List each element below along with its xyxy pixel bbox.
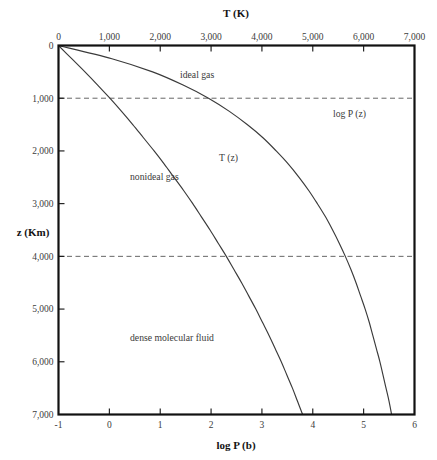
annotation-nonideal-gas: nonideal gas: [130, 171, 179, 182]
top-tick-label-5000: 5,000: [302, 32, 324, 42]
top-tick-label-2000: 2,000: [150, 32, 172, 42]
bottom-tick-label-0: 0: [107, 420, 112, 430]
left-tick-label-5000: 5,000: [32, 304, 54, 314]
bottom-tick-label-6: 6: [412, 420, 417, 430]
top-tick-label-4000: 4,000: [251, 32, 273, 42]
bottom-tick-label-1: 1: [158, 420, 163, 430]
top-tick-label-3000: 3,000: [200, 32, 222, 42]
annotation-log-p-curve-label: log P (z): [333, 108, 366, 120]
chart-canvas: 01,0002,0003,0004,0005,0006,0007,000 -10…: [0, 0, 437, 460]
bottom-axis-title: log P (b): [216, 439, 255, 452]
left-axis-title: z (Km): [17, 226, 50, 239]
annotation-dense-molecular-fluid: dense molecular fluid: [130, 332, 214, 343]
figure-background: [0, 0, 437, 460]
bottom-tick-label-2: 2: [209, 420, 214, 430]
bottom-tick-label-3: 3: [260, 420, 265, 430]
left-tick-label-3000: 3,000: [32, 199, 54, 209]
left-tick-label-1000: 1,000: [32, 94, 54, 104]
top-tick-label-0: 0: [56, 32, 61, 42]
left-tick-label-6000: 6,000: [32, 357, 54, 367]
left-tick-label-2000: 2,000: [32, 146, 54, 156]
bottom-tick-label--1: -1: [55, 420, 63, 430]
top-tick-label-7000: 7,000: [404, 32, 426, 42]
bottom-tick-label-5: 5: [361, 420, 366, 430]
left-tick-label-0: 0: [49, 41, 54, 51]
top-axis-title: T (K): [223, 7, 249, 20]
top-tick-label-1000: 1,000: [99, 32, 121, 42]
annotation-t-curve-label: T (z): [219, 152, 238, 164]
annotation-ideal-gas: ideal gas: [180, 69, 214, 80]
bottom-tick-label-4: 4: [310, 420, 315, 430]
top-tick-label-6000: 6,000: [353, 32, 375, 42]
left-tick-label-4000: 4,000: [32, 252, 54, 262]
figure-container: 01,0002,0003,0004,0005,0006,0007,000 -10…: [0, 0, 437, 460]
left-tick-label-7000: 7,000: [32, 410, 54, 420]
